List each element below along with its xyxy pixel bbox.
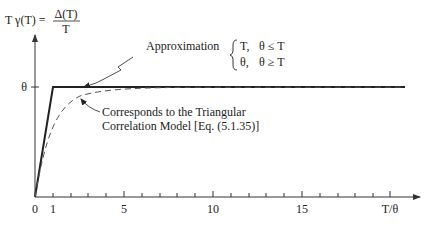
approximation-pointer — [84, 57, 133, 87]
triangular-model-curve — [35, 87, 405, 197]
x-tick-label-1: 1 — [50, 202, 56, 216]
piecewise-row1-value: T, — [240, 39, 249, 53]
x-axis-label: T/θ — [382, 202, 399, 216]
x-ticks — [53, 191, 390, 197]
piecewise-row2-condition: θ ≥ T — [259, 55, 285, 69]
x-tick-label-0: 0 — [32, 202, 38, 216]
approximation-label: Approximation — [146, 39, 219, 53]
x-tick-label-15: 15 — [296, 202, 308, 216]
variance-function-diagram: 0 1 5 10 15 T/θ θ T γ(T) = Δ(T) T Approx… — [0, 0, 441, 226]
x-tick-label-5: 5 — [121, 202, 127, 216]
y-axis-label: T γ(T) = Δ(T) T — [5, 7, 80, 36]
x-tick-label-10: 10 — [207, 202, 219, 216]
y-axis-label-denominator: T — [62, 22, 70, 36]
model-label-line2: Correlation Model [Eq. (5.1.35)] — [102, 119, 259, 133]
y-tick-label-theta: θ — [21, 80, 27, 94]
model-label-line1: Corresponds to the Triangular — [102, 105, 246, 119]
x-tick-labels: 0 1 5 10 15 T/θ — [32, 202, 398, 216]
y-axis-label-numerator: Δ(T) — [54, 7, 77, 21]
piecewise-row2-value: θ, — [240, 55, 249, 69]
piecewise-brace — [230, 40, 237, 70]
piecewise-row1-condition: θ ≤ T — [259, 39, 285, 53]
model-pointer — [81, 99, 100, 112]
approximation-line — [35, 87, 405, 197]
y-axis-label-lhs: T γ(T) = — [5, 13, 46, 27]
piecewise-definition: T, θ ≤ T θ, θ ≥ T — [240, 39, 285, 69]
